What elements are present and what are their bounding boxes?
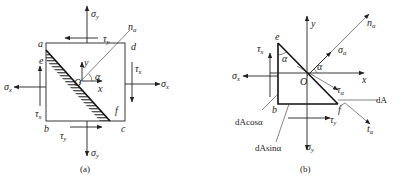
y-axis-label: y (310, 18, 316, 29)
point-a-label: a (38, 38, 43, 49)
point-e-label: e (275, 31, 280, 42)
y-axis-label: y (83, 57, 89, 68)
sigma-x-right-label: σx (161, 78, 169, 90)
origin-label: O (74, 77, 81, 88)
tau-y-top-label: τy (103, 33, 110, 45)
element-square (46, 43, 125, 121)
point-b-label: b (44, 123, 49, 134)
dAsin-label: dAsinα (255, 143, 282, 153)
panel-a: a d e b c f O y x α nα σy τy σy τy σx σx… (4, 6, 169, 174)
point-f-label: f (338, 104, 342, 115)
point-f-label: f (115, 105, 119, 116)
tau-y-bottom-label: τy (60, 130, 67, 142)
sigma-y-label: σy (306, 141, 314, 153)
tau-y-label: τy (330, 114, 337, 126)
point-d-label: d (131, 41, 137, 52)
tangent-label: tα (367, 123, 374, 135)
angle-arc (89, 74, 92, 81)
caption-b: (b) (300, 164, 311, 174)
angle-alpha-label: α (95, 71, 101, 82)
panel-b: e b f O y x nα tα α α σα τα σx τx τy σy … (232, 14, 388, 174)
point-c-label: c (121, 123, 126, 134)
sigma-x-left-label: σx (4, 81, 12, 93)
normal-label: nα (128, 21, 137, 33)
sigma-x-label: σx (232, 70, 240, 82)
dAcos-label: dAcosα (235, 117, 263, 127)
tau-alpha-label: τα (337, 84, 345, 96)
dAsin-leader (276, 104, 289, 142)
sigma-y-bottom-label: σy (91, 147, 99, 159)
tau-x-label: τx (257, 43, 264, 55)
x-axis-label: x (97, 83, 103, 94)
angle-alpha-e-label: α (282, 53, 288, 64)
dA-label: dA (376, 95, 388, 105)
point-e-label: e (39, 55, 44, 66)
point-b-label: b (272, 104, 277, 115)
t-alpha-arrow (340, 103, 370, 124)
normal-label: nα (367, 17, 376, 29)
caption-a: (a) (80, 164, 90, 174)
angle-alpha-o-label: α (317, 61, 323, 72)
tau-x-right-label: τx (135, 63, 142, 75)
sigma-alpha-label: σα (338, 44, 347, 56)
x-axis-label: x (361, 74, 367, 85)
origin-label: O (300, 76, 307, 87)
sigma-y-top-label: σy (91, 8, 99, 20)
stress-diagram: a d e b c f O y x α nα σy τy σy τy σx σx… (0, 0, 402, 180)
tau-x-left-label: τx (35, 108, 42, 120)
